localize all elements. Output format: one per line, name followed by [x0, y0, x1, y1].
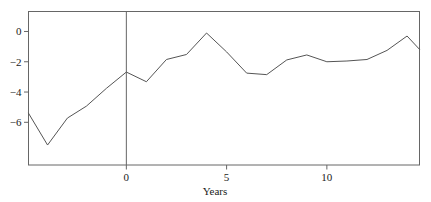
y-tick-label: −2	[10, 56, 22, 68]
line-chart: 0−2−4−6 0510 Years	[0, 0, 431, 202]
y-tick-label: −6	[10, 116, 22, 128]
y-tick-label: −4	[10, 86, 22, 98]
x-tick-label: 10	[321, 171, 333, 183]
x-tick-label: 0	[124, 171, 130, 183]
x-axis-title: Years	[203, 185, 228, 197]
chart-background	[0, 0, 431, 202]
chart-figure: 0−2−4−6 0510 Years	[0, 0, 431, 202]
y-tick-label: 0	[16, 25, 22, 37]
x-tick-label: 5	[224, 171, 230, 183]
